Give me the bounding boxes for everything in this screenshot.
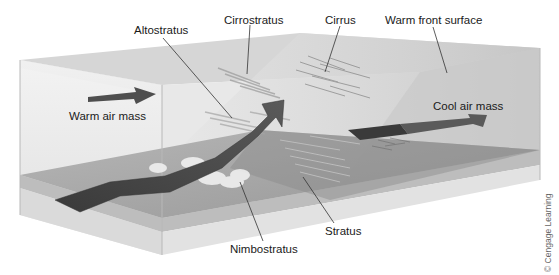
label-cool-air-mass: Cool air mass: [433, 101, 503, 113]
copyright-credit: © Cengage Learning: [543, 193, 553, 272]
label-warm-air-mass: Warm air mass: [69, 111, 146, 123]
label-cirrus: Cirrus: [325, 15, 356, 27]
label-stratus: Stratus: [325, 226, 361, 238]
label-warm-front-surface: Warm front surface: [385, 15, 482, 27]
diagram-illustration: [0, 0, 559, 275]
warm-front-diagram: Altostratus Cirrostratus Cirrus Warm fro…: [0, 0, 559, 275]
label-nimbostratus: Nimbostratus: [230, 244, 298, 256]
label-altostratus: Altostratus: [134, 25, 188, 37]
label-cirrostratus: Cirrostratus: [224, 15, 283, 27]
